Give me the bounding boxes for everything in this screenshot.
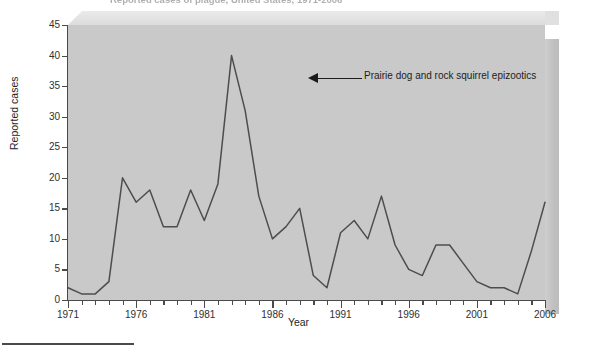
x-axis-minor-tick xyxy=(232,301,233,305)
x-axis-minor-tick xyxy=(286,301,287,305)
y-axis-title: Reported cases xyxy=(8,76,20,150)
x-axis-minor-tick xyxy=(163,301,164,305)
figure-title: Reported cases of plague, United States,… xyxy=(110,0,342,5)
x-axis-minor-tick xyxy=(95,301,96,305)
y-axis-tick-label: 40 xyxy=(34,50,60,61)
figure-title-strip: Reported cases of plague, United States,… xyxy=(0,0,597,11)
x-axis-minor-tick xyxy=(504,301,505,305)
y-axis-tick-label: 35 xyxy=(34,80,60,91)
x-axis-minor-tick xyxy=(313,301,314,305)
x-axis-minor-tick xyxy=(123,301,124,305)
data-line-svg xyxy=(68,25,545,301)
panel-top-bevel xyxy=(68,11,559,25)
x-axis-minor-tick xyxy=(354,301,355,305)
x-axis-minor-tick xyxy=(300,301,301,305)
x-axis-minor-tick xyxy=(450,301,451,305)
x-axis-minor-tick xyxy=(381,301,382,305)
x-axis-minor-tick xyxy=(518,301,519,305)
panel-right-bevel xyxy=(545,39,559,314)
x-axis-minor-tick xyxy=(218,301,219,305)
x-axis-major-tick xyxy=(477,301,478,308)
y-axis-tick-label: 20 xyxy=(34,172,60,183)
x-axis-major-tick xyxy=(204,301,205,308)
y-axis-tick-label: 25 xyxy=(34,141,60,152)
x-axis-minor-tick xyxy=(463,301,464,305)
annotation-label: Prairie dog and rock squirrel epizootics xyxy=(364,70,536,81)
x-axis-minor-tick xyxy=(109,301,110,305)
x-axis-minor-tick xyxy=(150,301,151,305)
x-axis-minor-tick xyxy=(177,301,178,305)
footer-rule xyxy=(2,343,134,345)
panel-corner-bevel xyxy=(545,11,559,25)
figure-root: Reported cases of plague, United States,… xyxy=(0,0,597,352)
x-axis-major-tick xyxy=(68,301,69,308)
y-axis-tick-label: 5 xyxy=(34,263,60,274)
y-axis-tick-label: 30 xyxy=(34,111,60,122)
x-axis-major-tick xyxy=(272,301,273,308)
x-axis-minor-tick xyxy=(327,301,328,305)
y-axis-tick-label: 10 xyxy=(34,233,60,244)
x-axis-major-tick xyxy=(409,301,410,308)
x-axis-major-tick xyxy=(136,301,137,308)
x-axis-minor-tick xyxy=(395,301,396,305)
data-series-line xyxy=(68,56,545,294)
x-axis-minor-tick xyxy=(191,301,192,305)
x-axis-minor-tick xyxy=(245,301,246,305)
x-axis-major-tick xyxy=(545,301,546,308)
x-axis-minor-tick xyxy=(422,301,423,305)
x-axis-minor-tick xyxy=(368,301,369,305)
x-axis-minor-tick xyxy=(531,301,532,305)
x-axis-title: Year xyxy=(0,316,597,328)
y-axis-tick-label: 15 xyxy=(34,202,60,213)
x-axis-major-tick xyxy=(341,301,342,308)
x-axis-minor-tick xyxy=(436,301,437,305)
x-axis-minor-tick xyxy=(259,301,260,305)
chart-plot-area: 051015202530354045 197119761981198619911… xyxy=(68,25,545,300)
y-axis-tick-label: 45 xyxy=(34,19,60,30)
x-axis-minor-tick xyxy=(82,301,83,305)
x-axis-minor-tick xyxy=(490,301,491,305)
y-axis-tick-label: 0 xyxy=(34,294,60,305)
annotation-leader-line xyxy=(316,78,362,79)
